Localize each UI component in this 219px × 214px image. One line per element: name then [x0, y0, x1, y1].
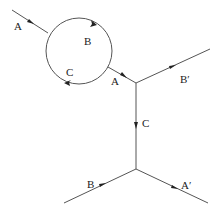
arrow-propagator-c [134, 122, 138, 129]
label-propagator-c: C [142, 117, 149, 129]
arrow-outgoing-b-prime [169, 65, 176, 69]
diagram-canvas: A B C A B′ C B A′ [0, 0, 219, 214]
label-outgoing-b-prime: B′ [180, 73, 190, 85]
loop-circle [46, 18, 112, 84]
label-incoming-a: A [14, 20, 22, 32]
label-loop-c: C [66, 66, 73, 78]
arrow-incoming-b [99, 183, 106, 187]
label-incoming-b: B [87, 178, 94, 190]
arrow-outgoing-a-prime [171, 185, 178, 189]
label-outgoing-a-prime: A′ [181, 179, 191, 191]
arrow-outgoing-a [120, 72, 127, 78]
label-loop-b: B [84, 35, 91, 47]
label-outgoing-a: A [111, 75, 119, 87]
